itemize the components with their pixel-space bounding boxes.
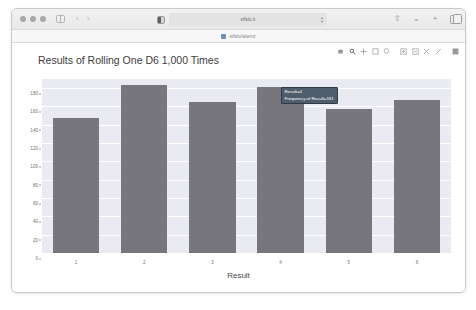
- bar-5[interactable]: [326, 109, 372, 253]
- y-axis-tick-label: 100: [30, 164, 38, 169]
- page-content: Results of Rolling One D6 1,000 Times Fr…: [12, 43, 465, 291]
- chart-title: Results of Rolling One D6 1,000 Times: [38, 54, 219, 66]
- lasso-icon[interactable]: [383, 47, 391, 55]
- bar-series: [42, 79, 451, 253]
- bar-slot: [178, 79, 246, 253]
- zoom-in-icon[interactable]: [400, 47, 408, 55]
- plotly-modebar: [337, 47, 460, 55]
- bookmarks-bar: stfslo/sitemz: [12, 30, 465, 43]
- favicon-icon: [221, 34, 226, 39]
- x-axis-tick-label: 5: [315, 260, 383, 265]
- gridline: [42, 253, 451, 254]
- x-axis-title: Result: [12, 271, 465, 280]
- toolbar-right-icons: ⇧ ⌄ +: [392, 9, 459, 29]
- browser-toolbar: ‹ › stfslo.it ▲▼ ⇧ ⌄ +: [12, 9, 465, 30]
- address-bar-container: stfslo.it ▲▼: [157, 13, 327, 26]
- x-axis-tick-label: 6: [383, 260, 451, 265]
- y-axis-tick-label: 0: [35, 256, 38, 261]
- back-icon[interactable]: ‹: [76, 15, 79, 23]
- bookmark-item[interactable]: stfslo/sitemz: [229, 34, 255, 39]
- sidebar-toggle-icon[interactable]: [55, 14, 66, 25]
- reader-view-icon[interactable]: [157, 16, 165, 24]
- x-axis-tick-label: 4: [247, 260, 315, 265]
- bar-slot: [110, 79, 178, 253]
- zoom-icon[interactable]: [348, 47, 356, 55]
- bar-2[interactable]: [121, 85, 167, 253]
- y-axis-tick-label: 40: [33, 219, 38, 224]
- x-axis-tick-label: 2: [110, 260, 178, 265]
- downloads-icon[interactable]: ⌄: [411, 14, 421, 24]
- y-axis-tick-label: 60: [33, 201, 38, 206]
- y-axis-tick-label: 80: [33, 182, 38, 187]
- y-axis-tick-label: 140: [30, 127, 38, 132]
- minimize-button[interactable]: [30, 16, 36, 22]
- y-axis-tick-label: 180: [30, 91, 38, 96]
- y-axis-tick-label: 20: [33, 237, 38, 242]
- camera-icon[interactable]: [337, 47, 345, 55]
- x-axis-ticks: 123456: [42, 260, 451, 265]
- y-axis-tick-label: 160: [30, 109, 38, 114]
- bar-3[interactable]: [189, 102, 235, 253]
- bar-slot: [383, 79, 451, 253]
- browser-window: ‹ › stfslo.it ▲▼ ⇧ ⌄ + stfslo/sitemz: [11, 8, 466, 293]
- zoom-box-icon[interactable]: [371, 47, 379, 55]
- bar-slot: [247, 79, 315, 253]
- url-text: stfslo.it: [241, 17, 256, 22]
- reset-axes-icon[interactable]: [434, 47, 442, 55]
- share-icon[interactable]: ⇧: [392, 14, 402, 24]
- window-controls: [20, 16, 46, 22]
- tab-overview-icon[interactable]: [449, 14, 459, 24]
- bar-1[interactable]: [53, 118, 99, 253]
- new-tab-icon[interactable]: +: [430, 14, 440, 24]
- navigation-controls: ‹ ›: [76, 15, 89, 23]
- bar-6[interactable]: [394, 100, 440, 253]
- x-axis-tick-label: 1: [42, 260, 110, 265]
- zoom-out-icon[interactable]: [411, 47, 419, 55]
- pan-icon[interactable]: [360, 47, 368, 55]
- close-button[interactable]: [20, 16, 26, 22]
- autoscale-icon[interactable]: [423, 47, 431, 55]
- plotly-logo-icon[interactable]: [451, 47, 459, 55]
- forward-icon[interactable]: ›: [87, 15, 90, 23]
- bar-4[interactable]: [257, 87, 303, 253]
- bar-slot: [42, 79, 110, 253]
- maximize-button[interactable]: [40, 16, 46, 22]
- address-bar[interactable]: stfslo.it ▲▼: [169, 13, 327, 26]
- bar-slot: [315, 79, 383, 253]
- plot-area: 020406080100120140160180 Result=4 Freque…: [42, 79, 451, 253]
- y-axis-tick-label: 120: [30, 146, 38, 151]
- x-axis-tick-label: 3: [178, 260, 246, 265]
- address-stepper-icon[interactable]: ▲▼: [320, 15, 324, 24]
